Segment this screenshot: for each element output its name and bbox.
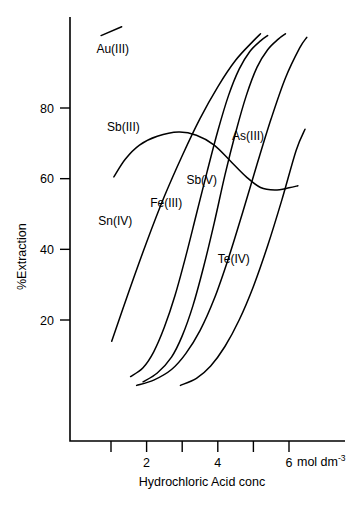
series-label-sbv: Sb(V) <box>186 173 217 187</box>
x-axis-unit-text: mol dm <box>297 455 338 469</box>
series-labels: Au(III)Sn(IV)Sb(III)Fe(III)Sb(V)As(III)T… <box>96 42 264 266</box>
series-label-feiii: Fe(III) <box>150 196 182 210</box>
y-tick-label-40: 40 <box>40 243 54 257</box>
chart-container: 246 20406080 Au(III)Sn(IV)Sb(III)Fe(III)… <box>0 0 361 507</box>
x-axis-ticks <box>111 441 289 452</box>
x-axis-unit-label: mol dm-3 <box>297 453 346 469</box>
y-axis-ticks <box>60 108 70 320</box>
curve-auiii <box>101 27 122 36</box>
data-curves <box>101 27 307 386</box>
y-tick-label-20: 20 <box>40 314 54 328</box>
extraction-vs-hcl-chart: 246 20406080 Au(III)Sn(IV)Sb(III)Fe(III)… <box>0 0 361 507</box>
y-axis-tick-labels: 20406080 <box>40 102 54 328</box>
series-label-asiii: As(III) <box>232 129 264 143</box>
x-tick-label-6: 6 <box>286 456 293 470</box>
series-label-sbiii: Sb(III) <box>107 120 140 134</box>
y-tick-label-80: 80 <box>40 102 54 116</box>
series-label-sniv: Sn(IV) <box>98 214 132 228</box>
x-tick-label-4: 4 <box>214 456 221 470</box>
chart-axes <box>70 17 345 441</box>
x-tick-label-2: 2 <box>143 456 150 470</box>
curve-sniv <box>112 34 261 341</box>
x-axis-tick-labels: 246 <box>143 456 292 470</box>
series-label-teiv: Te(IV) <box>218 252 250 266</box>
x-axis-unit-exponent: -3 <box>338 453 346 463</box>
series-label-auiii: Au(III) <box>96 42 129 56</box>
y-axis-title: %Extraction <box>15 223 29 290</box>
x-axis-title: Hydrochloric Acid conc <box>139 475 265 489</box>
y-tick-label-60: 60 <box>40 172 54 186</box>
